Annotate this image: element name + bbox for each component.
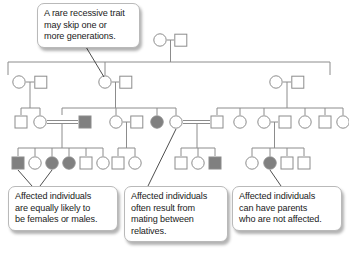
- leader-line-middle: [148, 129, 176, 186]
- individual-II-2-male-unaffected: [35, 76, 47, 88]
- callout-right-line-3: who are not affected.: [239, 214, 336, 226]
- pedigree-diagram: A rare recessive trait may skip one or m…: [0, 0, 349, 253]
- individual-III-5-male-unaffected: [131, 116, 143, 128]
- individual-II-5-female-unaffected: [270, 76, 282, 88]
- individual-II-1-female-unaffected: [13, 76, 25, 88]
- individual-IV-11-male-affected: [209, 157, 221, 169]
- consanguineous-union-left: [47, 121, 78, 149]
- callout-middle-line-2: often result from: [131, 203, 222, 215]
- sibship-bar-gen4-left: [18, 148, 103, 156]
- individual-III-8-male-unaffected: [211, 116, 223, 128]
- callout-left-line-2: are equally likely to: [15, 203, 112, 215]
- individual-IV-2-female-unaffected: [29, 157, 41, 169]
- individual-III-1-male-unaffected: [15, 116, 27, 128]
- mating-line-gen3-right: [271, 122, 278, 148]
- individual-III-9-female-unaffected: [234, 116, 246, 128]
- callout-right-line-1: Affected individuals: [239, 191, 336, 203]
- callout-recessive-skip-generations: A rare recessive trait may skip one or m…: [37, 3, 140, 48]
- individual-III-12-female-unaffected: [299, 116, 311, 128]
- leader-line-left-a: [18, 170, 32, 186]
- individual-IV-8-female-unaffected: [129, 157, 141, 169]
- callout-unaffected-parents: Affected individuals can have parents wh…: [232, 186, 342, 231]
- individual-IV-13-female-affected: [264, 157, 276, 169]
- individual-IV-10-female-unaffected: [192, 157, 204, 169]
- callout-top-line-1: A rare recessive trait: [44, 8, 134, 20]
- callout-top-line-2: may skip one or: [44, 20, 134, 32]
- individual-IV-6-female-unaffected: [97, 157, 109, 169]
- individual-IV-14-male-unaffected: [281, 157, 293, 169]
- individual-II-3-female-unaffected: [99, 76, 111, 88]
- callout-equal-sex-ratio: Affected individuals are equally likely …: [8, 186, 118, 231]
- callout-middle-line-4: relatives.: [131, 226, 222, 238]
- callout-middle-line-1: Affected individuals: [131, 191, 222, 203]
- individual-IV-7-male-unaffected: [112, 157, 124, 169]
- individual-III-2-female-unaffected: [34, 116, 46, 128]
- individual-III-3-male-affected: [79, 116, 91, 128]
- individual-III-11-male-unaffected: [279, 116, 291, 128]
- individual-III-4-female-unaffected: [110, 116, 122, 128]
- individual-III-14-female-unaffected: [337, 116, 349, 128]
- mating-line-gen1: [167, 40, 174, 62]
- leader-line-right: [270, 170, 281, 186]
- individual-IV-3-female-affected: [46, 157, 58, 169]
- individual-I-1-female-unaffected: [154, 34, 166, 46]
- individual-IV-4-female-affected: [63, 157, 75, 169]
- individual-IV-5-male-unaffected: [80, 157, 92, 169]
- sibship-bar-gen4-right: [252, 148, 304, 156]
- consanguineous-union-middle: [183, 121, 210, 149]
- callout-consanguinity: Affected individuals often result from m…: [124, 186, 228, 242]
- individual-II-6-male-unaffected: [292, 76, 304, 88]
- sibship-bar-gen4-middle-right: [181, 148, 215, 156]
- sibship-bar-gen4-middle-left: [118, 148, 135, 156]
- mating-line-gen2-middle: [62, 82, 176, 115]
- mating-line-gen3-middle: [123, 122, 130, 148]
- individual-I-2-male-unaffected: [175, 34, 187, 46]
- callout-middle-line-3: mating between: [131, 214, 222, 226]
- individual-II-4-male-unaffected: [120, 76, 132, 88]
- callout-top-line-3: more generations.: [44, 31, 134, 43]
- individual-IV-12-female-unaffected: [246, 157, 258, 169]
- individual-IV-15-male-unaffected: [298, 157, 310, 169]
- individual-III-13-male-unaffected: [319, 116, 331, 128]
- callout-left-line-3: be females or males.: [15, 214, 112, 226]
- callout-left-line-1: Affected individuals: [15, 191, 112, 203]
- individual-III-6-female-affected: [151, 116, 163, 128]
- leader-line-left-b: [40, 170, 52, 186]
- individual-III-10-female-unaffected: [258, 116, 270, 128]
- individual-III-7-female-unaffected: [170, 116, 182, 128]
- callout-right-line-2: can have parents: [239, 203, 336, 215]
- individual-IV-9-male-unaffected: [175, 157, 187, 169]
- individual-IV-1-male-affected: [12, 157, 24, 169]
- sibship-bar-gen2: [8, 62, 330, 75]
